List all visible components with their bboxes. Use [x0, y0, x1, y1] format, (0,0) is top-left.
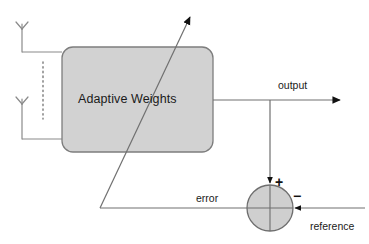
antenna-top — [16, 22, 28, 52]
antenna-bottom — [16, 97, 28, 139]
output-label: output — [278, 80, 307, 91]
adaptive-weights-label: Adaptive Weights — [78, 93, 177, 106]
reference-label: reference — [310, 221, 354, 232]
diagram-vector-layer — [0, 0, 369, 244]
diagram-canvas: Adaptive Weights output error reference … — [0, 0, 369, 244]
minus-sign-label: − — [293, 189, 301, 203]
error-label: error — [196, 193, 218, 204]
plus-sign-label: + — [275, 175, 283, 189]
